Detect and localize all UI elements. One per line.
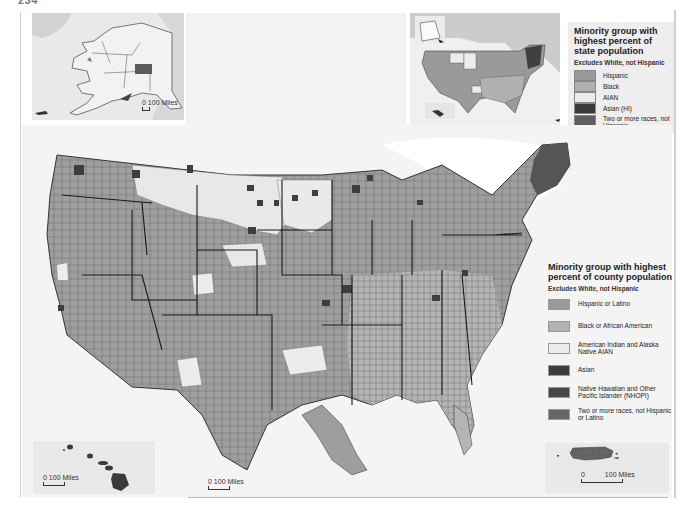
asian-swatch	[574, 103, 596, 114]
aian-swatch	[548, 343, 570, 354]
page-number: 234	[18, 0, 38, 6]
alaska-inset: 0 100 Miles	[32, 13, 184, 120]
state-overview-inset	[410, 13, 560, 125]
county-legend-item: Native Hawaiian and Other Pacific Island…	[548, 384, 672, 400]
two-or-more-swatch	[548, 409, 570, 420]
county-legend: Minority group with highest percent of c…	[548, 262, 672, 428]
county-legend-subtitle: Excludes White, not Hispanic	[548, 285, 672, 292]
alaska-scale-bar: 0 100 Miles	[142, 99, 178, 111]
county-legend-item: Asian	[548, 362, 672, 378]
state-legend: Minority group with highest percent of s…	[568, 22, 674, 134]
state-legend-item: Asian (HI)	[574, 103, 670, 114]
hawaii-inset: 0 100 Miles	[33, 441, 155, 494]
county-legend-title: Minority group with highest percent of c…	[548, 262, 672, 282]
county-legend-item: American Indian and Alaska Native AIAN	[548, 340, 672, 356]
state-legend-item: AIAN	[574, 92, 670, 103]
puerto-rico-map	[545, 443, 669, 493]
state-legend-item: Black	[574, 81, 670, 92]
bottom-rule	[188, 497, 668, 498]
hispanic-latino-swatch	[548, 299, 570, 310]
conus-scale-bar: 0 100 Miles	[208, 478, 244, 490]
hispanic-swatch	[574, 70, 596, 81]
puerto-rico-inset: 0 100 Miles	[545, 443, 669, 493]
county-legend-item: Hispanic or Latino	[548, 296, 672, 312]
state-overview-map	[410, 13, 560, 125]
ocean-panel	[186, 13, 406, 125]
nhopi-swatch	[548, 387, 570, 398]
black-swatch	[574, 81, 596, 92]
state-legend-title: Minority group with highest percent of s…	[574, 26, 670, 56]
county-legend-item: Two or more races, not Hispanic or Latin…	[548, 406, 672, 422]
hawaii-scale-bar: 0 100 Miles	[43, 474, 79, 486]
black-african-american-swatch	[548, 321, 570, 332]
puerto-rico-scale-bar: 0 100 Miles	[581, 471, 635, 483]
state-legend-subtitle: Excludes White, not Hispanic	[574, 59, 670, 66]
county-legend-item: Black or African American	[548, 318, 672, 334]
frame-left-rule	[20, 12, 21, 497]
frame-right-rule	[674, 10, 676, 498]
state-legend-item: Hispanic	[574, 70, 670, 81]
hawaii-map	[33, 441, 155, 494]
aian-swatch	[574, 92, 596, 103]
asian-swatch	[548, 365, 570, 376]
